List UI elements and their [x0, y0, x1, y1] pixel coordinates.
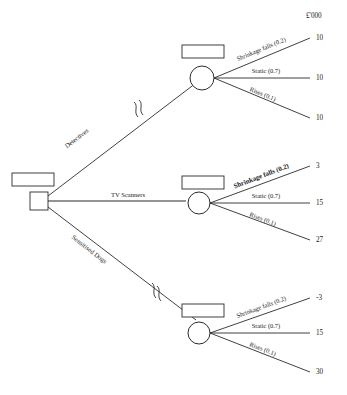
outcome-label-detectives-static: Static (0.7)	[252, 67, 280, 75]
payoff-sensitised-dogs-shrinkage-falls: -3	[316, 294, 322, 302]
payoff-tv-scanners-static: 15	[316, 199, 324, 207]
branch-label-detectives: Detectives	[63, 127, 90, 150]
branch-label-tv-scanners: TV Scanners	[111, 191, 146, 198]
node-value-box-sensitised-dogs	[182, 304, 224, 317]
decision-tree-diagram: £'000 13,800 Detectives 10,000 Shrinkage…	[0, 0, 347, 395]
payoff-detectives-rises: 10	[316, 114, 324, 122]
outcome-label-sensitised-dogs-static: Static (0.7)	[252, 322, 280, 330]
chance-node-tv-scanners[interactable]	[188, 192, 210, 214]
break-mark-detectives	[134, 100, 143, 117]
root-decision-node[interactable]	[30, 192, 48, 210]
node-value-box-tv-scanners	[182, 176, 224, 189]
root-value-box	[12, 173, 54, 186]
payoff-detectives-shrinkage-falls: 10	[316, 34, 324, 42]
payoff-sensitised-dogs-rises: 30	[316, 368, 324, 376]
outcome-label-tv-scanners-static: Static (0.7)	[252, 192, 280, 200]
outcome-label-sensitised-dogs-rises: Rises (0.1)	[248, 340, 277, 357]
units-label: £'000	[306, 12, 322, 20]
outcome-line-sensitised-dogs-rises[interactable]	[210, 333, 310, 372]
payoff-tv-scanners-shrinkage-falls: 3	[316, 162, 320, 170]
outcome-line-detectives-rises[interactable]	[214, 78, 310, 118]
payoff-sensitised-dogs-static: 15	[316, 329, 324, 337]
outcome-line-tv-scanners-rises[interactable]	[210, 203, 310, 240]
branch-line-sensitised-dogs[interactable]	[48, 207, 196, 320]
chance-node-detectives[interactable]	[190, 66, 214, 90]
chance-node-sensitised-dogs[interactable]	[188, 322, 210, 344]
node-value-box-detectives	[182, 45, 224, 58]
outcome-label-sensitised-dogs-shrinkage-falls: Shrinkage falls (0.2)	[235, 294, 287, 319]
payoff-detectives-static: 10	[316, 74, 324, 82]
payoff-tv-scanners-rises: 27	[316, 236, 324, 244]
